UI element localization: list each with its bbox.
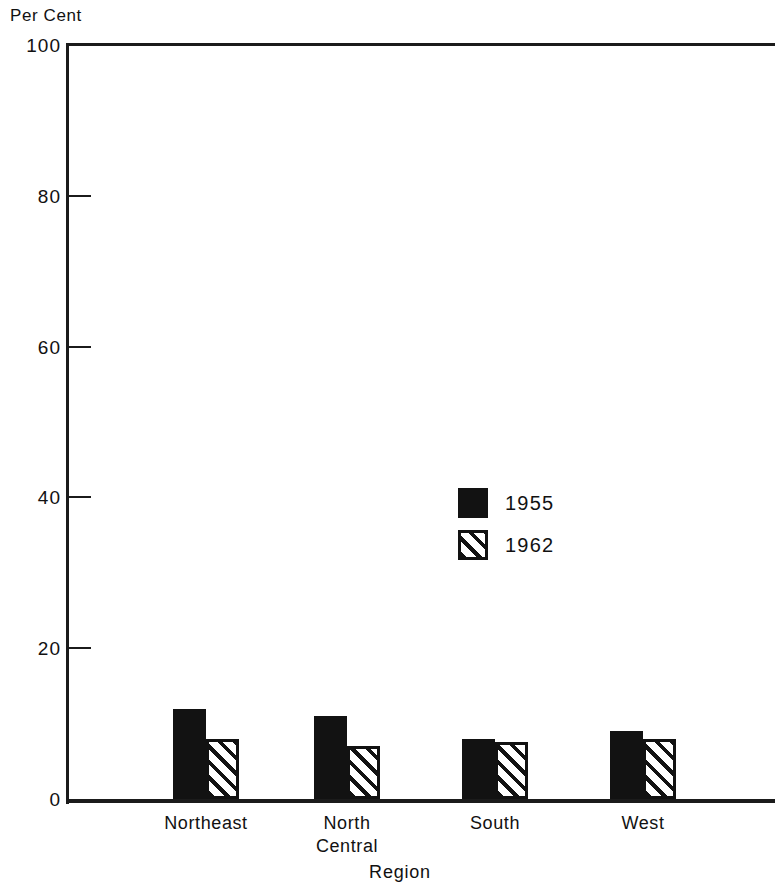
bar-chart-figure: Per Cent 100806040200 NortheastNorth Cen… <box>0 0 775 892</box>
bar-1955 <box>173 709 206 799</box>
plot-area <box>69 45 775 799</box>
y-tick-label: 60 <box>0 337 61 356</box>
y-tick-label: 0 <box>0 790 61 809</box>
legend-item: 1962 <box>458 524 554 566</box>
y-tick-label: 80 <box>0 186 61 205</box>
bar-1962 <box>495 742 528 799</box>
bar-group <box>462 45 528 799</box>
x-axis-caption: Region <box>0 862 775 883</box>
bar-group <box>173 45 239 799</box>
bar-1962 <box>347 746 380 799</box>
x-category-label: South <box>425 812 565 835</box>
x-category-label: North Central <box>277 812 417 858</box>
legend-label: 1955 <box>505 492 554 515</box>
legend-item: 1955 <box>458 482 554 524</box>
x-axis-line <box>66 799 775 803</box>
legend-swatch-1955 <box>458 488 488 518</box>
y-tick-label: 100 <box>0 36 61 55</box>
x-category-label: Northeast <box>136 812 276 835</box>
legend-label: 1962 <box>505 534 554 557</box>
chart-legend: 19551962 <box>458 482 554 566</box>
legend-swatch-1962 <box>458 530 488 560</box>
bar-group <box>314 45 380 799</box>
bar-1955 <box>314 716 347 799</box>
bar-1955 <box>462 739 495 799</box>
y-tick-label: 40 <box>0 488 61 507</box>
bar-1962 <box>206 739 239 799</box>
x-category-label: West <box>573 812 713 835</box>
y-axis-caption: Per Cent <box>10 6 82 26</box>
bar-group <box>610 45 676 799</box>
y-tick-label: 20 <box>0 639 61 658</box>
bar-1962 <box>643 739 676 799</box>
x-axis-caption-text: Region <box>369 862 431 883</box>
bar-1955 <box>610 731 643 799</box>
